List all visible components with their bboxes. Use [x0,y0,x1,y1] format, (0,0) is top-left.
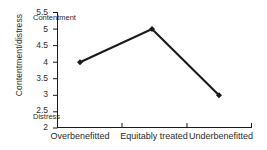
y-axis [53,12,58,128]
x-axis [58,123,253,128]
data-line [80,29,219,95]
x-tick-label-underbenefitted: Underbenefitted [176,131,266,142]
line-chart: Contentment/distress 5.5 5 4.5 4 3.5 3 2… [0,0,267,150]
plot-area [0,0,267,150]
